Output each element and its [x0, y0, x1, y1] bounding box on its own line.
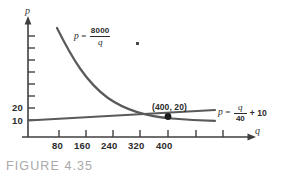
- x-tick-label-320: 320: [128, 141, 144, 151]
- demand-equation-label: p = 8000 q: [74, 26, 111, 47]
- supply-equation-label: p = q 40 + 10: [218, 102, 267, 123]
- y-axis-arrowhead: [25, 16, 32, 25]
- intersection-point-label: (400, 20): [152, 103, 187, 112]
- x-tick-label-240: 240: [101, 141, 117, 151]
- x-tick-label-400: 400: [156, 141, 172, 151]
- y-tick-label-10: 10: [4, 116, 23, 126]
- supply-eq-fraction: q 40: [234, 103, 247, 123]
- demand-eq-equals: =: [81, 32, 86, 41]
- supply-eq-equals: =: [225, 108, 230, 117]
- demand-eq-numerator: 8000: [90, 27, 111, 36]
- y-tick-label-20: 20: [4, 103, 23, 113]
- scan-speck-mark: [136, 42, 139, 45]
- x-axis-label: q: [255, 126, 260, 136]
- supply-eq-numerator: q: [238, 103, 243, 113]
- x-tick-label-160: 160: [74, 141, 90, 151]
- supply-eq-lhs: p: [218, 108, 223, 118]
- supply-eq-denominator: 40: [236, 114, 245, 123]
- figure-container: q p 80 160 240 320 400 20 10 p = 8000 q …: [0, 0, 284, 182]
- x-tick-label-80: 80: [52, 141, 63, 151]
- equilibrium-point-marker: [165, 113, 172, 120]
- demand-eq-lhs: p: [74, 32, 79, 42]
- plot-canvas: [0, 0, 284, 182]
- x-axis-ticks: [59, 130, 223, 137]
- demand-eq-denominator: q: [98, 37, 103, 47]
- y-axis-ticks: [28, 36, 35, 120]
- y-axis-label: p: [25, 6, 30, 16]
- supply-eq-plus-term: + 10: [250, 109, 267, 118]
- demand-eq-fraction: 8000 q: [90, 27, 111, 47]
- figure-caption: FIGURE 4.35: [6, 159, 93, 173]
